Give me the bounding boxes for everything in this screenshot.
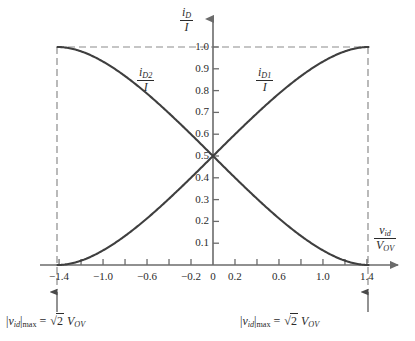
annotation-arrows-group (57, 292, 368, 312)
annotation-right-result-sub: OV (308, 320, 319, 329)
y-axis-title-denominator: I (180, 20, 193, 33)
y-tick-label: 0.3 (177, 193, 209, 205)
curve-label-id2: iD2 I (137, 66, 154, 93)
curve-label-id1-den: I (256, 80, 273, 93)
y-axis-title: iD I (180, 6, 193, 33)
annotation-left-radicand: 2 (56, 313, 64, 329)
y-tick-label: 0.4 (177, 171, 209, 183)
transfer-characteristic-figure: iD I vid VOV iD2 I iD1 I −1.4−1.0−0.6−0.… (0, 0, 415, 341)
y-tick-label: 0.7 (177, 105, 209, 117)
annotation-left: |vid|max = √2 VOV (6, 313, 85, 329)
annotation-right-radicand: 2 (290, 313, 298, 329)
y-axis-ticks (213, 47, 219, 243)
annotation-left-equals: = (40, 314, 47, 328)
y-tick-label: 0.1 (177, 236, 209, 248)
y-tick-label: 0.8 (177, 84, 209, 96)
curve-label-id1: iD1 I (256, 66, 273, 93)
y-tick-label: 0.6 (177, 127, 209, 139)
x-tick-label: −0.6 (131, 270, 163, 282)
y-tick-label: 0.2 (177, 214, 209, 226)
x-tick-label: −1.4 (43, 270, 75, 282)
y-tick-label: 0.5 (177, 149, 209, 161)
x-tick-label: 0.2 (219, 270, 251, 282)
annotation-right-max-sub: max (257, 320, 271, 329)
x-tick-label: 1.4 (351, 270, 383, 282)
y-axis-title-numerator-sub: D (185, 11, 191, 20)
x-tick-label: −1.0 (87, 270, 119, 282)
x-tick-label: 0.6 (263, 270, 295, 282)
curve-label-id2-sub: D2 (142, 71, 152, 80)
y-tick-label: 0.9 (177, 62, 209, 74)
annotation-right: |vid|max = √2 VOV (240, 313, 319, 329)
x-axis-title-denominator-sub: OV (383, 244, 394, 253)
annotation-left-max-sub: max (23, 320, 37, 329)
x-axis-title-numerator-sub: id (385, 229, 391, 238)
annotation-left-result-sub: OV (74, 320, 85, 329)
annotation-right-equals: = (274, 314, 281, 328)
x-tick-label: 1.0 (307, 270, 339, 282)
curve-label-id1-sub: D1 (261, 71, 271, 80)
curve-label-id2-den: I (137, 80, 154, 93)
x-axis-title: vid VOV (374, 224, 396, 253)
y-tick-label: 1.0 (177, 40, 209, 52)
